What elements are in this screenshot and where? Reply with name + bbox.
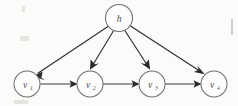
graph-canvas: h v 1 v 2 v 3 v 4 [0, 0, 238, 106]
edge-group-observed-chain [41, 80, 202, 88]
page-margin-mark [231, 19, 233, 35]
node-v2-subscript: 2 [93, 85, 96, 91]
edge-h-to-v2-line [93, 31, 114, 66]
node-v3-subscript: 3 [154, 85, 158, 91]
edge-v1-to-v2 [41, 80, 78, 88]
edge-h-to-v1 [34, 27, 109, 81]
edge-v2-to-v3 [103, 80, 140, 88]
edge-h-to-v4-line [131, 26, 201, 72]
node-v1[interactable]: v 1 [14, 71, 40, 97]
graphical-model-figure: h v 1 v 2 v 3 v 4 [0, 0, 238, 106]
scan-speck [22, 6, 25, 12]
node-h-label: h [117, 14, 122, 24]
node-v1-subscript: 1 [30, 85, 33, 91]
scan-speck [14, 100, 28, 104]
node-v2[interactable]: v 2 [77, 71, 103, 97]
edge-h-to-v4 [131, 26, 205, 74]
node-v4-subscript: 4 [217, 85, 220, 91]
edge-h-to-v4-arrowhead [194, 66, 205, 75]
scan-speck [20, 36, 29, 41]
node-v4[interactable]: v 4 [201, 71, 227, 97]
node-h[interactable]: h [106, 5, 133, 32]
edge-h-to-v1-line [38, 27, 109, 74]
node-v3[interactable]: v 3 [139, 71, 165, 97]
edge-h-to-v3-line [125, 31, 148, 66]
edge-h-to-v3-arrowhead [141, 59, 151, 69]
edge-v3-to-v4 [165, 80, 202, 88]
edge-group-hidden-to-observed [34, 26, 205, 80]
